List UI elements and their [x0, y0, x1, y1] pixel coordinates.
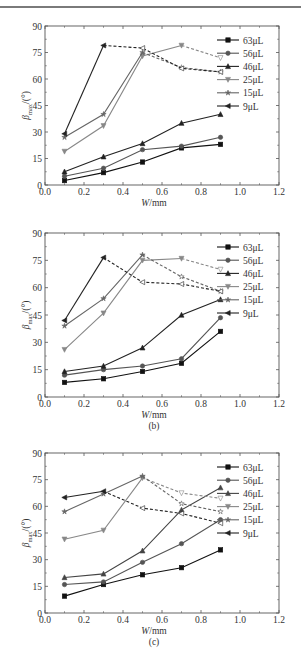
y-tick-label: 15 [33, 154, 43, 164]
y-tick-label: 60 [33, 502, 43, 512]
data-point-marker [140, 160, 144, 164]
legend: 63μL56μL46μL25μL15μL9μL [217, 463, 264, 539]
x-tick-label: 0.4 [117, 399, 129, 409]
legend-item: 46μL [217, 269, 264, 279]
legend-label: 46μL [243, 489, 264, 499]
data-point-marker [218, 267, 223, 272]
legend-item: 63μL [217, 243, 264, 253]
legend-item: 63μL [217, 463, 264, 473]
data-point-marker [140, 369, 144, 373]
data-point-marker [62, 594, 66, 598]
x-tick-label: 0.6 [156, 399, 168, 409]
data-point-marker [179, 565, 183, 569]
data-point-marker [101, 170, 105, 174]
legend-item: 56μL [217, 49, 264, 59]
data-point-marker [140, 147, 144, 151]
legend: 63μL56μL46μL25μL15μL9μL [217, 243, 264, 319]
data-point-marker [218, 329, 222, 333]
data-point-marker [62, 537, 67, 542]
series-9uL [62, 255, 223, 323]
data-point-marker [140, 560, 144, 564]
legend-item: 9μL [217, 529, 259, 539]
legend-marker [225, 297, 230, 302]
y-tick-label: 0 [37, 181, 42, 191]
data-point-marker [179, 357, 183, 361]
series-25uL [62, 256, 223, 352]
x-tick-label: 0.2 [78, 187, 90, 197]
y-tick-label: 0 [37, 393, 42, 403]
legend-label: 63μL [243, 463, 264, 473]
y-tick-label: 45 [33, 529, 43, 539]
x-tick-label: 0.8 [195, 187, 207, 197]
x-tick-label: 0.8 [195, 615, 207, 625]
legend-marker [226, 465, 230, 469]
data-point-marker [218, 485, 223, 490]
legend-item: 46μL [217, 62, 264, 72]
chart-panel-a: 0.00.20.40.60.81.01.20153045607590W/mmβm… [0, 0, 301, 206]
y-tick-label: 90 [33, 229, 43, 239]
data-point-marker [218, 316, 222, 320]
y-tick-label: 30 [33, 338, 43, 348]
data-point-marker [218, 548, 222, 552]
legend-label: 46μL [243, 62, 264, 72]
legend-label: 25μL [243, 502, 264, 512]
y-axis-label: βmax/(°) [21, 519, 33, 549]
legend-label: 25μL [243, 75, 264, 85]
legend-item: 9μL [217, 102, 259, 112]
data-point-marker [140, 506, 145, 511]
x-tick-label: 0.6 [156, 187, 168, 197]
panel-label: (c) [149, 637, 160, 648]
x-tick-label: 0.6 [156, 615, 168, 625]
legend-label: 46μL [243, 269, 264, 279]
y-tick-label: 75 [33, 48, 43, 58]
legend-label: 9μL [243, 529, 259, 539]
legend-label: 63μL [243, 243, 264, 253]
y-axis-label: βmax/(°) [21, 91, 33, 121]
legend-marker [225, 90, 230, 95]
data-point-marker [62, 509, 67, 514]
legend-marker [226, 51, 230, 55]
data-point-marker [101, 580, 105, 584]
x-tick-label: 1.2 [273, 399, 285, 409]
data-point-marker [140, 280, 145, 285]
data-point-marker [140, 364, 144, 368]
legend-item: 9μL [217, 309, 259, 319]
legend-item: 56μL [217, 256, 264, 266]
legend-label: 9μL [243, 102, 259, 112]
x-tick-label: 1.0 [234, 399, 246, 409]
x-axis-label: W/mm [141, 198, 167, 206]
data-point-marker [62, 582, 66, 586]
series-63uL [62, 548, 222, 599]
y-tick-label: 90 [33, 22, 43, 32]
legend: 63μL56μL46μL25μL15μL9μL [217, 36, 264, 112]
y-tick-label: 75 [33, 256, 43, 266]
x-tick-label: 0.2 [78, 615, 90, 625]
legend-item: 25μL [217, 282, 264, 292]
legend-label: 15μL [243, 88, 264, 98]
data-point-marker [101, 377, 105, 381]
y-tick-label: 30 [33, 128, 43, 138]
data-point-marker [140, 573, 144, 577]
x-tick-label: 0.4 [117, 615, 129, 625]
data-point-marker [218, 496, 223, 501]
data-point-marker [179, 144, 183, 148]
data-point-marker [62, 178, 66, 182]
legend-label: 56μL [243, 49, 264, 59]
legend-item: 25μL [217, 75, 264, 85]
legend-marker [226, 245, 230, 249]
data-point-marker [62, 174, 66, 178]
legend-marker [225, 104, 230, 109]
data-point-marker [179, 541, 183, 545]
legend-label: 63μL [243, 36, 264, 46]
x-tick-label: 0.2 [78, 399, 90, 409]
data-point-marker [218, 135, 222, 139]
data-point-marker [179, 274, 184, 279]
legend-label: 56μL [243, 476, 264, 486]
data-point-marker [179, 361, 183, 365]
legend-marker [226, 478, 230, 482]
x-tick-label: 0.4 [117, 187, 129, 197]
legend-label: 15μL [243, 295, 264, 305]
data-point-marker [218, 56, 223, 61]
chart-panel-b: 0.00.20.40.60.81.01.20153045607590W/mmβm… [0, 222, 301, 432]
y-tick-label: 15 [33, 365, 43, 375]
